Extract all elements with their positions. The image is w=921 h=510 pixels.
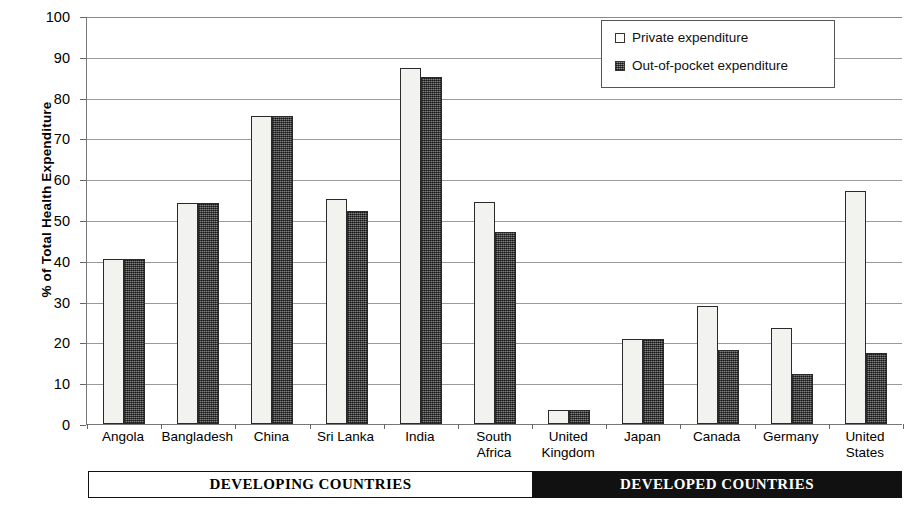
x-tick-label-united-states: UnitedStates [828,429,902,460]
y-tick-label: 70 [54,131,70,147]
y-tick-mark [80,425,86,426]
health-expenditure-bar-chart: % of Total Health Expenditure 0102030405… [0,0,921,510]
bar-private-south-africa [474,202,495,424]
x-tick-label-line: United [828,429,902,445]
bar-oop-china [272,116,293,424]
bar-private-china [251,116,272,424]
bar-oop-india [421,77,442,424]
bar-private-united-states [845,191,866,424]
legend-label-out-of-pocket: Out-of-pocket expenditure [632,58,788,73]
x-tick-label-line: Africa [457,445,531,461]
x-tick-label-line: India [383,429,457,445]
x-tick-label-germany: Germany [754,429,828,445]
bar-oop-south-africa [495,232,516,424]
y-tick-label: 10 [54,376,70,392]
x-tick-label-line: Japan [605,429,679,445]
y-axis-tick-labels: 0102030405060708090100 [0,0,80,510]
banner-label-developing: DEVELOPING COUNTRIES [210,476,412,493]
bar-oop-germany [792,374,813,424]
x-tick-label-united-kingdom: UnitedKingdom [531,429,605,460]
bar-private-angola [103,259,124,424]
y-tick-label: 20 [54,335,70,351]
x-tick-mark [903,424,904,429]
y-tick-label: 40 [54,254,70,270]
x-tick-label-china: China [234,429,308,445]
legend-item-private: Private expenditure [615,30,834,45]
bar-private-india [400,68,421,424]
x-tick-label-line: South [457,429,531,445]
bar-oop-united-kingdom [569,410,590,424]
bar-oop-united-states [866,353,887,424]
x-tick-label-south-africa: SouthAfrica [457,429,531,460]
y-tick-label: 100 [46,9,70,25]
x-tick-label-line: United [531,429,605,445]
bar-private-germany [771,328,792,424]
y-tick-label: 90 [54,50,70,66]
bar-private-sri-lanka [326,199,347,424]
x-tick-label-line: Sri Lanka [309,429,383,445]
country-group-banner: DEVELOPING COUNTRIES DEVELOPED COUNTRIES [88,471,902,498]
y-tick-label: 60 [54,172,70,188]
y-tick-label: 0 [62,417,70,433]
x-tick-label-line: Kingdom [531,445,605,461]
x-tick-label-india: India [383,429,457,445]
x-tick-label-line: Germany [754,429,828,445]
y-tick-label: 80 [54,91,70,107]
bar-private-canada [697,306,718,424]
legend-swatch-private-icon [615,33,625,43]
bar-oop-sri-lanka [347,211,368,424]
chart-legend: Private expenditure Out-of-pocket expend… [601,20,835,88]
banner-segment-developing: DEVELOPING COUNTRIES [88,471,532,498]
x-axis-category-labels: AngolaBangladeshChinaSri LankaIndiaSouth… [86,429,902,473]
x-tick-label-bangladesh: Bangladesh [160,429,234,445]
banner-segment-developed: DEVELOPED COUNTRIES [532,471,902,498]
bar-private-united-kingdom [548,410,569,424]
y-tick-label: 50 [54,213,70,229]
x-tick-label-line: China [234,429,308,445]
legend-label-private: Private expenditure [632,30,748,45]
x-tick-label-line: Angola [86,429,160,445]
y-tick-label: 30 [54,295,70,311]
bar-private-bangladesh [177,203,198,424]
x-tick-label-line: Canada [679,429,753,445]
legend-item-out-of-pocket: Out-of-pocket expenditure [615,58,834,73]
x-tick-label-canada: Canada [679,429,753,445]
bar-oop-bangladesh [198,203,219,424]
x-tick-label-angola: Angola [86,429,160,445]
bar-oop-canada [718,350,739,424]
banner-label-developed: DEVELOPED COUNTRIES [620,476,814,493]
x-tick-label-sri-lanka: Sri Lanka [309,429,383,445]
bar-private-japan [622,339,643,424]
legend-swatch-out-of-pocket-icon [615,61,625,71]
bar-oop-angola [124,259,145,424]
x-tick-label-line: States [828,445,902,461]
x-tick-label-line: Bangladesh [160,429,234,445]
bar-oop-japan [643,339,664,424]
x-tick-label-japan: Japan [605,429,679,445]
